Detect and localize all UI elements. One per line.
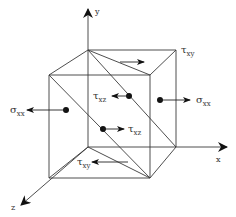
- x-axis-label: x: [216, 155, 221, 164]
- sigma-xx-right-label: σxx: [196, 94, 211, 108]
- sigma-xx-left-label: σxx: [10, 104, 25, 118]
- tau-xy-top-label: τxy: [181, 44, 194, 58]
- stress-labels: τxy τxz σxx σxx τxz τxy: [10, 44, 211, 170]
- z-axis-label: z: [11, 203, 15, 212]
- y-axis-label: y: [94, 7, 100, 16]
- axes: y x z: [11, 7, 227, 212]
- diagonal-plane: [49, 50, 176, 178]
- tau-xz-lower-label: τxz: [128, 123, 141, 137]
- stress-cube-diagram: y x z: [0, 0, 236, 217]
- tau-xy-bottom-label: τxy: [77, 156, 90, 170]
- tau-xz-upper-label: τxz: [93, 90, 106, 104]
